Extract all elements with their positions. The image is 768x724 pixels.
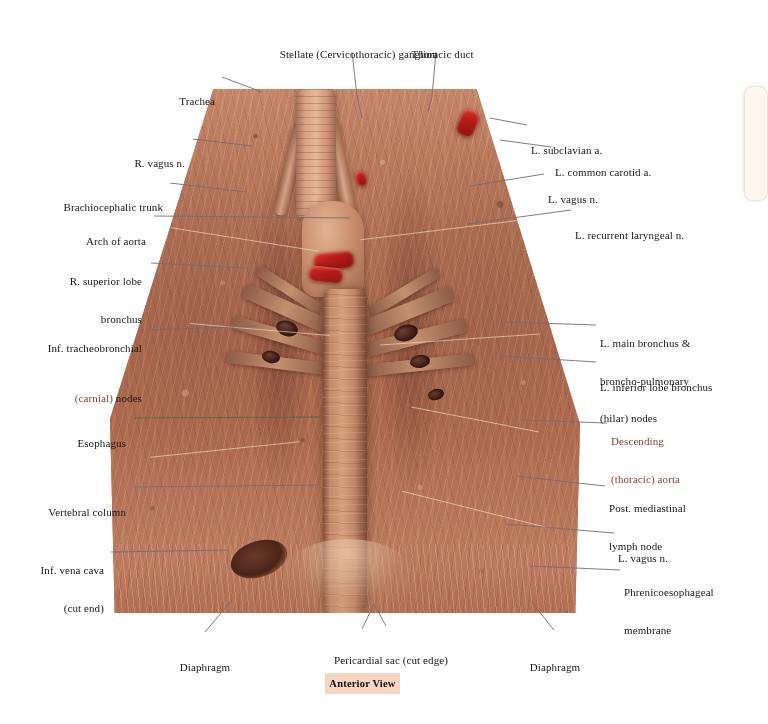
label-text: L. main bronchus & xyxy=(600,337,736,350)
label-diaphragm-right: Diaphragm xyxy=(500,636,610,699)
label-accent-word: (carnial) xyxy=(75,392,113,404)
label-text: Inf. tracheobronchial xyxy=(14,342,142,355)
label-text: (cut end) xyxy=(20,602,104,615)
anterior-view-caption: Anterior View xyxy=(325,673,400,694)
label-text: L. inferior lobe bronchus xyxy=(600,381,760,394)
label-text: Trachea xyxy=(60,95,215,108)
pericardial-sac-structure xyxy=(282,539,414,613)
label-text: L. recurrent laryngeal n. xyxy=(575,229,740,242)
label-text: Diaphragm xyxy=(150,661,260,674)
label-diaphragm-left: Diaphragm xyxy=(150,636,260,699)
label-text: Arch of aorta xyxy=(30,235,146,248)
side-panel xyxy=(744,86,768,201)
label-text: Esophagus xyxy=(40,437,126,450)
label-vertebral-column: Vertebral column xyxy=(30,481,126,544)
label-text: Post. mediastinal xyxy=(609,502,729,515)
label-text: R. vagus n. xyxy=(40,157,185,170)
label-text: Pericardial sac (cut edge) xyxy=(300,654,482,667)
label-text: Diaphragm xyxy=(500,661,610,674)
label-text: Thoracic duct xyxy=(412,48,474,60)
label-text: Vertebral column xyxy=(30,506,126,519)
trachea-structure xyxy=(296,89,336,217)
label-text: membrane xyxy=(624,624,752,637)
label-phrenicoesophageal-membrane: Phrenicoesophageal membrane xyxy=(624,561,752,661)
label-text: R. superior lobe xyxy=(22,275,142,288)
label-text: Descending xyxy=(611,435,731,448)
label-thoracic-duct: Thoracic duct xyxy=(392,35,482,73)
label-trachea: Trachea xyxy=(60,70,215,133)
label-text: Phrenicoesophageal xyxy=(624,586,752,599)
label-inf-vena-cava: Inf. vena cava (cut end) xyxy=(20,539,104,639)
label-l-recurrent-laryngeal-n: L. recurrent laryngeal n. xyxy=(575,204,740,267)
label-esophagus: Esophagus xyxy=(40,412,126,475)
anterior-view-text: Anterior View xyxy=(329,678,395,689)
label-text: Inf. vena cava xyxy=(20,564,104,577)
